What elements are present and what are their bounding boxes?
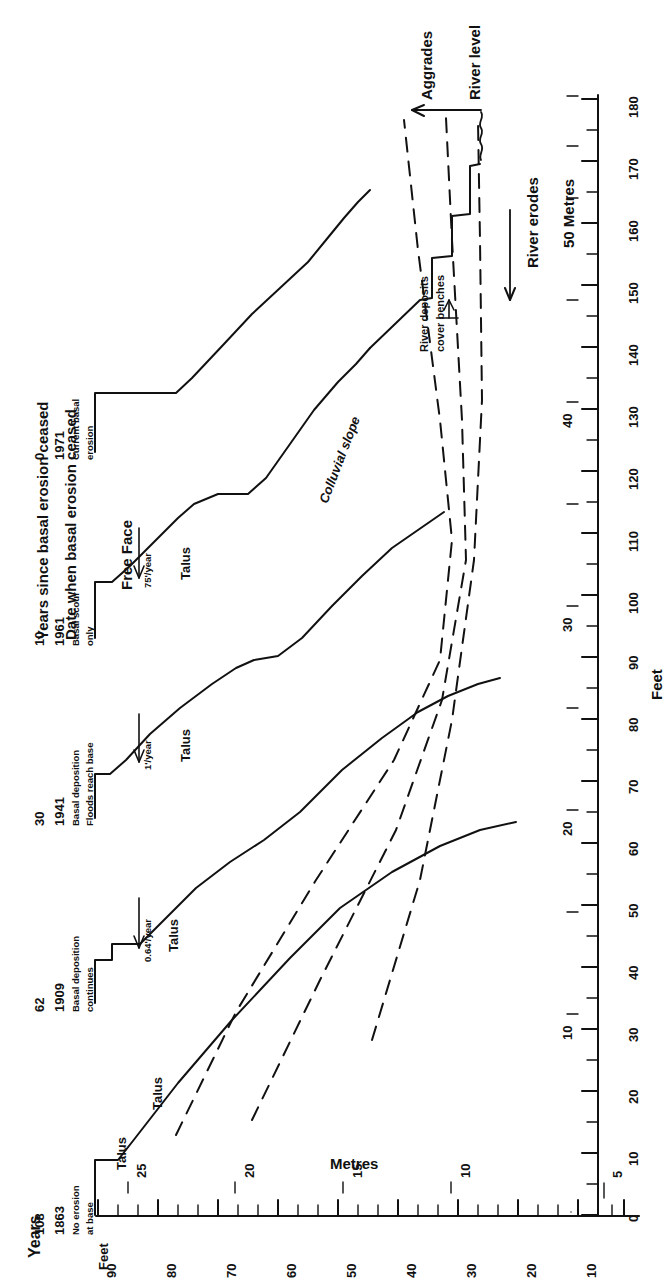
dist-tick-90: 90 [626,656,641,670]
elev-metre-25: 25 [134,1164,149,1178]
profile-date-1909: 1909 [52,983,67,1012]
elev-tick-90: 90 [104,1264,119,1278]
talus-label-1909: Talus [150,1077,165,1110]
elev-tick-40: 40 [404,1264,419,1278]
talus-label-1961: Talus [178,729,193,762]
profile-1971 [95,190,370,452]
profile-status1-1961: Basal scour [70,592,81,646]
profile-status1-1971: Current basal [70,399,81,460]
dist-tick-0: 0 [626,1215,641,1222]
elev-tick-80: 80 [164,1264,179,1278]
distance-axis-line [567,95,598,1215]
profile-status1-1863: No erosion [70,1185,81,1235]
talus-label-1863: Talus [114,1137,129,1170]
aggrades-arrow [412,105,481,116]
free-face-label: Free Face [118,520,135,590]
distance-feet-caption: Feet [648,669,665,700]
colluvial-slope-dashed [176,120,452,1135]
profile-years-1941: 30 [32,812,47,826]
rate-label-1: 1'/year [142,740,153,770]
rate-label-75: 75'/year [142,553,153,588]
river-deposits-label: River deposits [418,276,430,352]
elev-tick-50: 50 [344,1264,359,1278]
profile-status2-1863: at base [84,1202,95,1235]
elev-metre-5: 5 [610,1171,625,1178]
dist-tick-120: 120 [626,468,641,490]
dist-metre-10: 10 [560,1026,575,1040]
river-level-wavy [480,112,482,160]
cover-benches-label: cover benches [434,275,446,352]
profile-years-1961: 10 [32,632,47,646]
profile-years-1971: 0 [32,453,47,460]
elevation-axis-line [96,1182,639,1216]
river-level-label: River level [466,25,483,100]
talus-label-1971: Talus [178,547,193,580]
profile-1909 [95,678,500,1003]
profile-1863 [95,822,516,1215]
dist-tick-180: 180 [626,96,641,118]
caption-years-since: Years since basal erosion ceased [34,402,51,640]
dist-tick-130: 130 [626,406,641,428]
profile-status2-1961: only [84,626,95,646]
profile-years-1909: 62 [32,998,47,1012]
profile-date-1941: 1941 [52,797,67,826]
elev-tick-30: 30 [464,1264,479,1278]
dist-tick-40: 40 [626,966,641,980]
dist-tick-170: 170 [626,158,641,180]
dist-tick-70: 70 [626,780,641,794]
profile-status2-1941: Floods reach base [84,743,95,826]
profile-status1-1909: Basal deposition [70,936,81,1012]
profile-date-1863: 1863 [52,1206,67,1235]
profile-status1-1941: Basal deposition [70,750,81,826]
elevation-metres-caption: Metres [330,1155,378,1172]
dist-tick-20: 20 [626,1090,641,1104]
elev-metre-10: 10 [458,1164,473,1178]
dist-tick-50: 50 [626,904,641,918]
dist-tick-30: 30 [626,1028,641,1042]
dist-tick-140: 140 [626,344,641,366]
talus-label-1941: Talus [166,919,181,952]
dist-metre-30: 30 [560,618,575,632]
river-deposits-dashed [372,122,482,1040]
profile-years-1863: 108 [32,1213,47,1235]
profile-status2-1971: erosion [84,426,95,460]
profile-status2-1909: continues [84,967,95,1012]
dist-tick-60: 60 [626,842,641,856]
elev-metre-20: 20 [242,1164,257,1178]
elev-tick-60: 60 [284,1264,299,1278]
dist-tick-10: 10 [626,1152,641,1166]
dist-tick-150: 150 [626,282,641,304]
elev-tick-10: 10 [584,1264,599,1278]
rate-label-064: 0.64'/year [142,919,153,962]
dist-tick-100: 100 [626,592,641,614]
profile-date-1971: 1971 [52,431,67,460]
dist-tick-160: 160 [626,220,641,242]
profile-date-1961: 1961 [52,617,67,646]
bench-surface-dashed [252,118,466,1120]
dist-tick-80: 80 [626,718,641,732]
river-erodes-label: River erodes [524,177,541,268]
dist-metre-40: 40 [560,414,575,428]
dist-tick-110: 110 [626,531,641,552]
elev-tick-70: 70 [224,1264,239,1278]
river-erodes-arrow [505,210,515,300]
aggrades-label: Aggrades [418,31,435,100]
dist-metre-20: 20 [560,822,575,836]
distance-metres-caption: 50 Metres [560,179,577,248]
elev-tick-20: 20 [524,1264,539,1278]
